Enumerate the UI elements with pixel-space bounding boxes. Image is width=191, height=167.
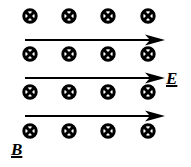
arrow-right-icon [25, 73, 165, 84]
circle-cross-icon [63, 125, 75, 137]
circle-cross-icon [24, 125, 36, 137]
field-diagram [0, 0, 191, 167]
circle-cross-icon [63, 10, 75, 22]
circle-cross-icon [24, 48, 36, 60]
arrow-right-icon [25, 35, 165, 46]
circle-cross-icon [63, 86, 75, 98]
circle-cross-icon [102, 10, 114, 22]
circle-cross-icon [24, 10, 36, 22]
circle-cross-icon [102, 125, 114, 137]
magnetic-field-label: B [11, 141, 22, 158]
circle-cross-icon [24, 86, 36, 98]
circle-cross-icon [142, 10, 154, 22]
circle-cross-icon [63, 48, 75, 60]
circle-cross-icon [142, 125, 154, 137]
circle-cross-icon [102, 86, 114, 98]
circle-cross-icon [142, 48, 154, 60]
circle-cross-icon [102, 48, 114, 60]
circle-cross-icon [142, 86, 154, 98]
arrow-right-icon [25, 111, 165, 122]
magnetic-field-symbols [24, 10, 154, 137]
electric-field-label: E [166, 70, 177, 87]
